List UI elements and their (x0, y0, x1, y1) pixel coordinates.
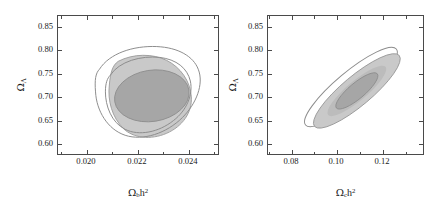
xtick-minor-right-2 (314, 152, 315, 155)
ytick-left-3 (58, 74, 62, 75)
omega-sub-y-right: Λ (232, 78, 240, 83)
panel-omega-c: 0.08 0.10 0.12 0.85 0.80 0.75 0.70 0.65 … (267, 15, 424, 155)
ytick-label-left-3: 0.75 (38, 69, 53, 78)
xtick-major-left-2 (138, 150, 139, 154)
xtick-label-left-3: 0.024 (178, 157, 197, 166)
ytick-label-right-6: 0.60 (248, 139, 263, 148)
plot-frame-right (267, 15, 424, 155)
ytick-right-left-4 (214, 97, 218, 98)
ytick-right-right-2 (419, 50, 423, 51)
ytick-label-right-1: 0.85 (248, 22, 263, 31)
ytick-left-right-5 (268, 121, 272, 122)
ytick-label-left-1: 0.85 (38, 22, 53, 31)
ytick-right-right-1 (419, 27, 423, 28)
figure-canvas: 0.020 0.022 0.024 0.85 0.80 0.75 0.70 0.… (0, 0, 442, 199)
xtick-top-left-2 (138, 16, 139, 20)
xtick-top-minor-left-3 (163, 16, 164, 19)
xtick-top-right-3 (383, 16, 384, 20)
xtick-top-minor-right-4 (406, 16, 407, 19)
h-exp-x-left: 2 (145, 187, 148, 194)
xtick-label-right-2: 0.10 (328, 157, 343, 166)
ytick-right-left-1 (214, 27, 218, 28)
xtick-major-right-3 (383, 150, 384, 154)
xtick-minor-right-1 (269, 152, 270, 155)
ytick-label-left-2: 0.80 (38, 45, 53, 54)
xtick-top-minor-left-4 (214, 16, 215, 19)
xtick-top-left-3 (189, 16, 190, 20)
xtick-major-left-3 (189, 150, 190, 154)
ytick-right-right-3 (419, 74, 423, 75)
xtick-minor-left-2 (112, 152, 113, 155)
panel-omega-b: 0.020 0.022 0.024 0.85 0.80 0.75 0.70 0.… (57, 15, 219, 155)
ytick-left-2 (58, 50, 62, 51)
xtick-top-minor-right-1 (269, 16, 270, 19)
yaxis-title-left: ΩΛ (15, 78, 27, 91)
ytick-left-1 (58, 27, 62, 28)
xtick-top-minor-left-2 (112, 16, 113, 19)
ytick-label-right-3: 0.75 (248, 69, 263, 78)
xtick-label-left-1: 0.020 (76, 157, 95, 166)
ytick-label-left-6: 0.60 (38, 139, 53, 148)
omega-glyph-y-right: Ω (227, 83, 238, 91)
ytick-label-right-5: 0.65 (248, 116, 263, 125)
xtick-top-minor-left-1 (61, 16, 62, 19)
ytick-label-left-4: 0.70 (38, 92, 53, 101)
ytick-right-right-5 (419, 121, 423, 122)
xtick-major-left-1 (87, 150, 88, 154)
xtick-label-right-1: 0.08 (283, 157, 298, 166)
contour-plot-left (58, 16, 218, 154)
contour-plot-right (268, 16, 423, 154)
ytick-right-right-4 (419, 97, 423, 98)
xtick-top-right-1 (292, 16, 293, 20)
xtick-top-left-1 (87, 16, 88, 20)
xtick-label-left-2: 0.022 (127, 157, 146, 166)
ytick-label-right-4: 0.70 (248, 92, 263, 101)
ytick-right-right-6 (419, 144, 423, 145)
xtick-top-minor-right-3 (360, 16, 361, 19)
xtick-major-right-1 (292, 150, 293, 154)
ytick-left-right-6 (268, 144, 272, 145)
ytick-right-left-5 (214, 121, 218, 122)
yaxis-title-right: ΩΛ (227, 78, 239, 91)
xaxis-title-left: Ωbh2 (128, 187, 148, 198)
xtick-label-right-3: 0.12 (374, 157, 389, 166)
xtick-minor-right-4 (406, 152, 407, 155)
ytick-label-left-5: 0.65 (38, 116, 53, 125)
ytick-left-right-2 (268, 50, 272, 51)
plot-frame-left (57, 15, 219, 155)
ytick-right-left-3 (214, 74, 218, 75)
ytick-right-left-6 (214, 144, 218, 145)
xtick-minor-left-1 (61, 152, 62, 155)
xtick-major-right-2 (337, 150, 338, 154)
ytick-left-4 (58, 97, 62, 98)
omega-glyph-y-left: Ω (15, 83, 26, 91)
h-exp-x-right: 2 (352, 187, 355, 194)
xtick-top-minor-right-2 (314, 16, 315, 19)
ytick-label-right-2: 0.80 (248, 45, 263, 54)
xtick-minor-left-3 (163, 152, 164, 155)
ytick-left-6 (58, 144, 62, 145)
xtick-top-right-2 (337, 16, 338, 20)
xtick-minor-right-3 (360, 152, 361, 155)
ytick-left-right-3 (268, 74, 272, 75)
xtick-minor-left-4 (214, 152, 215, 155)
ytick-left-right-4 (268, 97, 272, 98)
ytick-left-5 (58, 121, 62, 122)
ytick-left-right-1 (268, 27, 272, 28)
xaxis-title-right: Ωch2 (336, 187, 356, 198)
ytick-right-left-2 (214, 50, 218, 51)
omega-sub-y-left: Λ (20, 78, 28, 83)
